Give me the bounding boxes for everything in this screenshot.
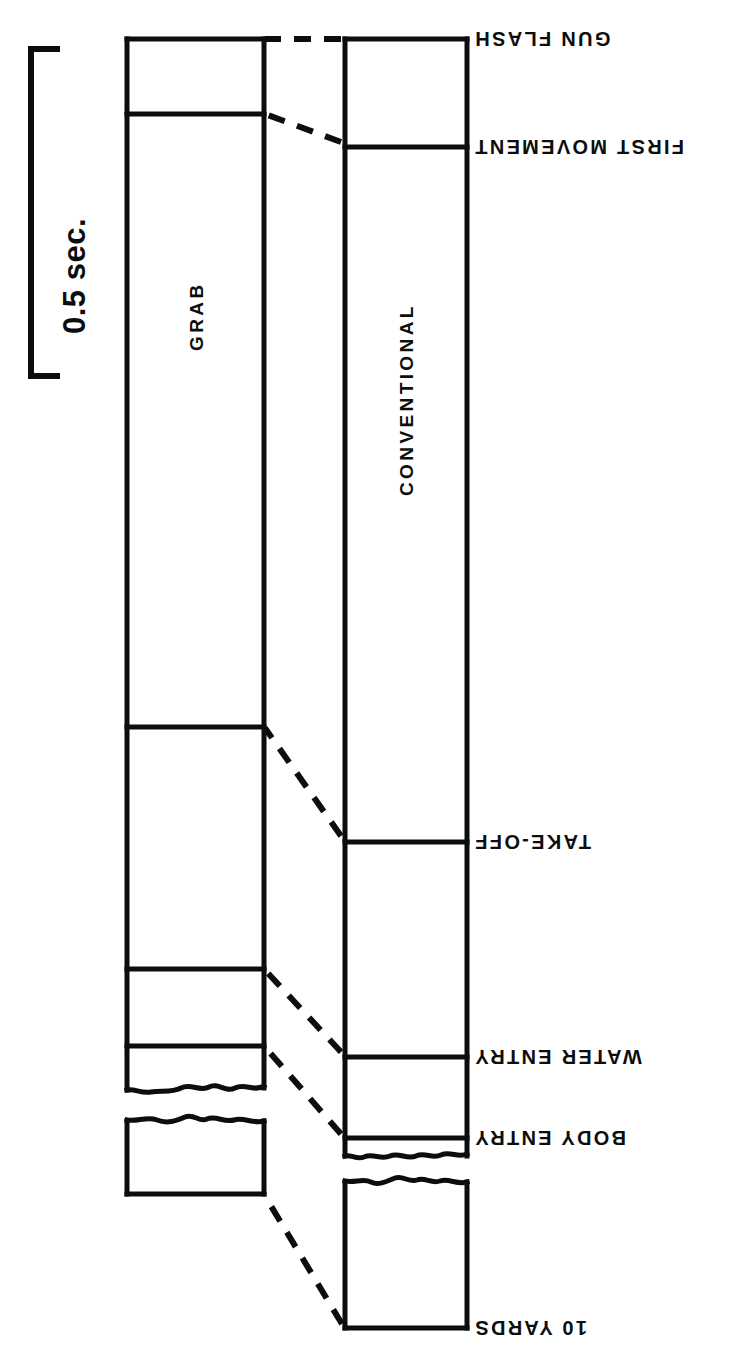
grab-segment-main: [127, 39, 264, 1092]
event-label-ten-yards: 10 YARDS: [473, 1318, 587, 1338]
event-label-water-entry: WATER ENTRY: [473, 1047, 642, 1067]
connector-take-off: [265, 728, 341, 836]
bar-label-conventional: CONVENTIONAL: [397, 303, 416, 496]
event-label-first-movement: FIRST MOVEMENT: [473, 137, 684, 157]
event-connector-lines: [265, 39, 342, 1324]
event-label-body-entry: BODY ENTRY: [473, 1128, 626, 1148]
time-scale-bar: [31, 49, 57, 376]
connector-body-entry: [265, 1047, 341, 1134]
grab-segment-ten-yards: [127, 1116, 264, 1194]
event-label-take-off: TAKE-OFF: [473, 832, 591, 852]
connector-first-movement: [265, 114, 341, 142]
event-label-gun-flash: GUN FLASH: [473, 29, 610, 49]
connector-water-entry: [265, 970, 341, 1052]
rotated-diagram-canvas: 10 YARDS BODY ENTRY WATER ENTRY TAKE-OFF…: [0, 0, 739, 1364]
scale-bar-label: 0.5 sec.: [59, 218, 90, 334]
connector-ten-yards: [265, 1196, 342, 1324]
conventional-segment-main: [345, 39, 467, 1158]
conventional-segment-ten-yards: [345, 1177, 467, 1328]
timing-bars-artwork: [0, 0, 739, 1364]
bar-label-grab: GRAB: [187, 281, 206, 351]
swim-start-timing-figure: 10 YARDS BODY ENTRY WATER ENTRY TAKE-OFF…: [0, 0, 739, 1364]
